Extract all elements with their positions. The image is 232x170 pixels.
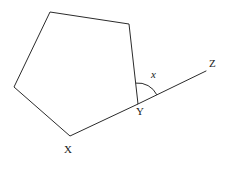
ray-label-z: Z [209,58,216,69]
vertex-label-y: Y [136,106,144,117]
geometry-canvas [0,0,232,170]
ray-yz-line [138,71,206,104]
exterior-angle-arc [136,83,157,95]
angle-label-x: x [151,69,156,80]
vertex-label-x: X [64,144,72,155]
pentagon-shape [14,12,138,136]
geometry-figure: X Y Z x [0,0,232,170]
